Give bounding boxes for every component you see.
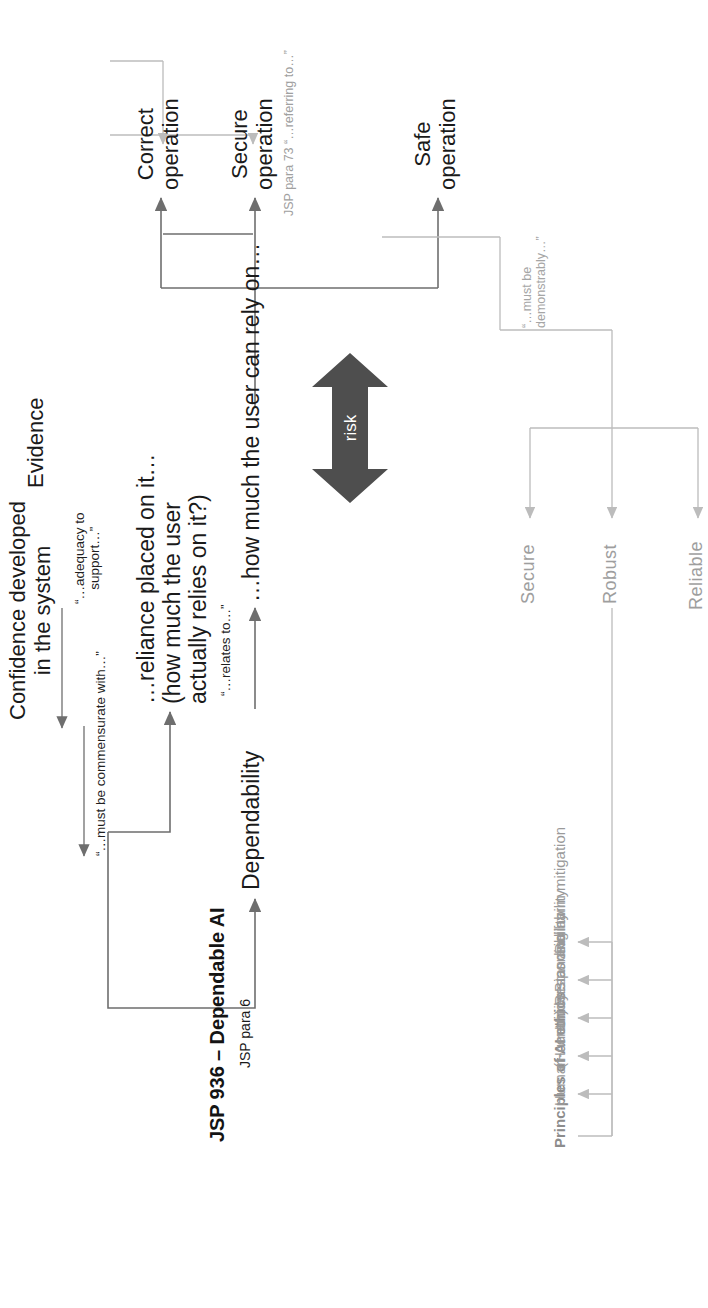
node-robust-attribute: Robust xyxy=(600,544,620,604)
node-secure-operation: Secure operation xyxy=(228,98,277,190)
risk-double-arrow: risk xyxy=(290,353,410,503)
title-subtitle: JSP para 6 xyxy=(238,999,254,1068)
edge-label-adequacy: “…adequacy to support…” xyxy=(72,512,102,604)
node-evidence: Evidence xyxy=(24,397,49,488)
edge-label-commensurate: “…must be commensurate with…” xyxy=(93,651,108,856)
edge-label-demonstrably: “…must be demonstrably…” xyxy=(520,236,548,328)
node-safe-operation: Safe operation xyxy=(411,98,460,190)
node-correct-operation: Correct operation xyxy=(134,98,183,190)
diagram-frame: risk JSP 936 – Dependable AI JSP para 6 … xyxy=(0,0,708,1308)
node-confidence: Confidence developed in the system xyxy=(6,501,55,720)
node-reliance-placed: …reliance placed on it… (how much the us… xyxy=(134,453,211,704)
node-secure-attribute: Secure xyxy=(518,544,538,604)
diagram-canvas: risk JSP 936 – Dependable AI JSP para 6 … xyxy=(0,0,708,1308)
edge-label-jsp-para-73: JSP para 73 “…referring to…” xyxy=(282,50,296,216)
ethics-item-reliability: Reliability xyxy=(552,890,569,954)
node-dependability: Dependability xyxy=(239,751,265,890)
risk-label: risk xyxy=(341,414,360,441)
page-title: JSP 936 – Dependable AI xyxy=(206,908,228,1142)
edge-label-relates-to: “…relates to…” xyxy=(218,604,233,696)
node-reliable-attribute: Reliable xyxy=(686,541,706,610)
node-rely-on: …how much the user can rely on… xyxy=(239,243,265,602)
